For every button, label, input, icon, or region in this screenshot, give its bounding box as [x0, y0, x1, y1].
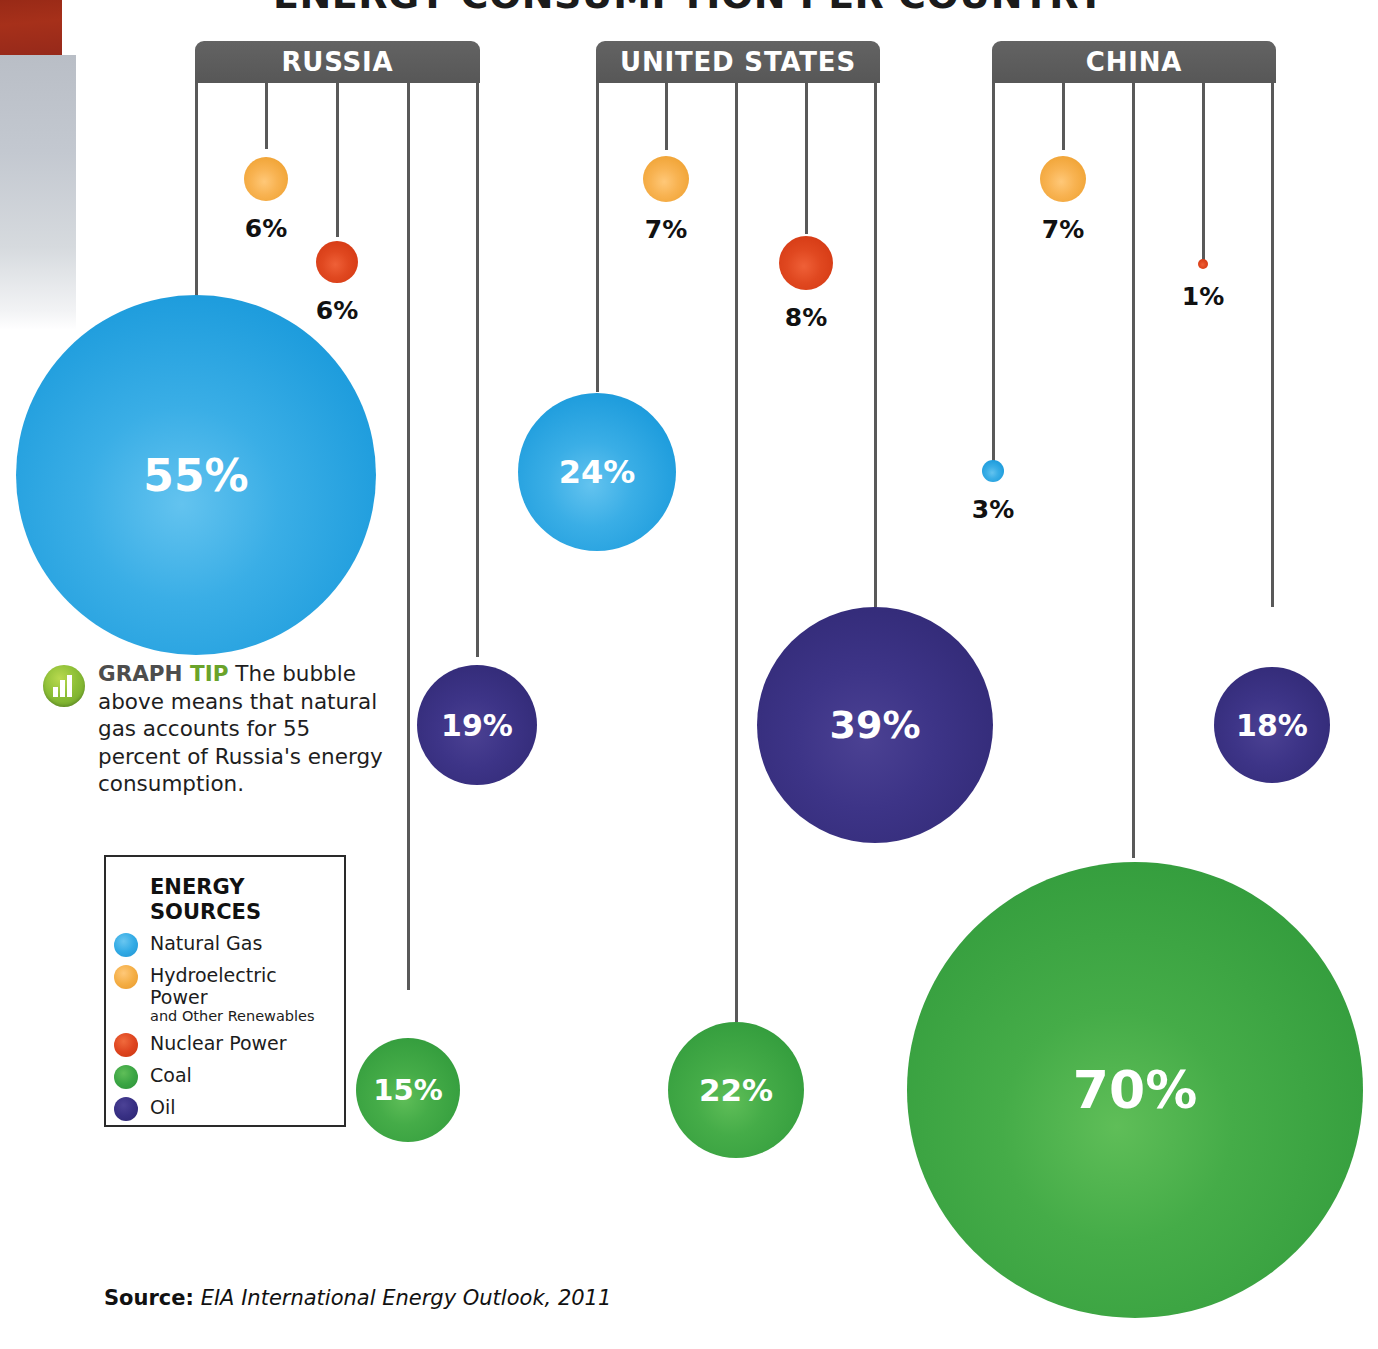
- legend-item-label: Natural Gas: [150, 932, 262, 954]
- connector-line: [195, 82, 198, 297]
- bubble-value-label: 55%: [143, 450, 248, 501]
- source-label: Source:: [104, 1286, 194, 1310]
- graph-tip-heading-tip: TIP: [190, 661, 228, 686]
- bubble-ru-nuclear: [316, 241, 358, 283]
- bubble-value-label: 6%: [206, 214, 326, 243]
- country-header-label: RUSSIA: [281, 47, 393, 77]
- bubble-us-nuclear: [779, 236, 833, 290]
- bubble-us-oil: 39%: [757, 607, 993, 843]
- legend-item-label-wrap: Natural Gas: [150, 932, 262, 954]
- graph-tip: GRAPH TIP The bubble above means that na…: [40, 660, 392, 798]
- bubble-value-label: 7%: [1003, 215, 1123, 244]
- bubble-value-label: 7%: [606, 215, 726, 244]
- legend-item-nuclear: Nuclear Power: [114, 1032, 332, 1057]
- bubble-cn-ng: [982, 460, 1004, 482]
- bubble-value-label: 15%: [373, 1073, 442, 1107]
- connector-line: [1271, 82, 1274, 607]
- connector-line: [1132, 82, 1135, 858]
- country-header-label: UNITED STATES: [620, 47, 856, 77]
- legend-swatch-oil-icon: [114, 1097, 138, 1121]
- legend-title: ENERGY SOURCES: [114, 875, 332, 925]
- bubble-ru-hydro: [244, 157, 288, 201]
- legend-swatch-nuclear-icon: [114, 1033, 138, 1057]
- legend-box: ENERGY SOURCES Natural GasHydroelectric …: [104, 855, 346, 1127]
- legend-item-label-wrap: Oil: [150, 1096, 176, 1118]
- source-text: EIA International Energy Outlook, 2011: [201, 1286, 612, 1310]
- legend-item-hydro: Hydroelectric Powerand Other Renewables: [114, 964, 332, 1025]
- bubble-value-label: 39%: [830, 703, 921, 747]
- bar-chart-icon: [43, 665, 85, 707]
- legend-item-label-wrap: Nuclear Power: [150, 1032, 287, 1054]
- page-title: ENERGY CONSUMPTION PER COUNTRY: [0, 0, 1378, 17]
- bubble-value-label: 18%: [1236, 708, 1308, 743]
- legend-swatch-coal-icon: [114, 1065, 138, 1089]
- legend-item-ng: Natural Gas: [114, 932, 332, 957]
- legend-item-label: Nuclear Power: [150, 1032, 287, 1054]
- legend-item-label-wrap: Coal: [150, 1064, 192, 1086]
- country-header-united-states: UNITED STATES: [596, 41, 880, 83]
- graph-tip-heading-graph: GRAPH: [98, 661, 183, 686]
- graph-tip-heading: GRAPH TIP: [98, 661, 229, 686]
- source-line: Source: EIA International Energy Outlook…: [104, 1286, 611, 1310]
- legend-item-sublabel: and Other Renewables: [150, 1008, 332, 1025]
- bubble-cn-nuclear: [1198, 259, 1208, 269]
- infographic-root: ENERGY CONSUMPTION PER COUNTRY RUSSIAUNI…: [0, 0, 1378, 1349]
- legend-items: Natural GasHydroelectric Powerand Other …: [114, 932, 332, 1121]
- bubble-value-label: 70%: [1073, 1060, 1197, 1120]
- bubble-ru-oil: 19%: [417, 665, 537, 785]
- legend-item-oil: Oil: [114, 1096, 332, 1121]
- legend-item-label: Coal: [150, 1064, 192, 1086]
- legend-swatch-hydro-icon: [114, 965, 138, 989]
- bubble-value-label: 1%: [1143, 282, 1263, 311]
- connector-line: [874, 82, 877, 607]
- bubble-value-label: 3%: [933, 495, 1053, 524]
- bubble-ru-coal: 15%: [356, 1038, 460, 1142]
- bubble-value-label: 19%: [441, 708, 513, 743]
- connector-line: [1062, 82, 1065, 150]
- bubble-us-ng: 24%: [518, 393, 676, 551]
- bubble-ru-ng: 55%: [16, 295, 376, 655]
- country-header-label: CHINA: [1086, 47, 1182, 77]
- connector-line: [735, 82, 738, 1022]
- country-header-china: CHINA: [992, 41, 1276, 83]
- bubble-cn-oil: 18%: [1214, 667, 1330, 783]
- connector-line: [265, 82, 268, 149]
- bubble-value-label: 22%: [699, 1072, 773, 1108]
- bubble-value-label: 6%: [277, 296, 397, 325]
- connector-line: [1202, 82, 1205, 260]
- legend-item-label-wrap: Hydroelectric Powerand Other Renewables: [150, 964, 332, 1025]
- connector-line: [476, 82, 479, 657]
- legend-item-label: Oil: [150, 1096, 176, 1118]
- country-header-russia: RUSSIA: [195, 41, 480, 83]
- connector-line: [665, 82, 668, 150]
- bubble-cn-hydro: [1040, 156, 1086, 202]
- connector-line: [596, 82, 599, 392]
- bubble-us-hydro: [643, 156, 689, 202]
- bubble-value-label: 8%: [746, 303, 866, 332]
- bubble-us-coal: 22%: [668, 1022, 804, 1158]
- graph-tip-text: GRAPH TIP The bubble above means that na…: [40, 660, 392, 798]
- bubble-value-label: 24%: [559, 453, 636, 491]
- bubble-cn-coal: 70%: [907, 862, 1363, 1318]
- decorative-gray-strip: [0, 55, 76, 330]
- legend-swatch-ng-icon: [114, 933, 138, 957]
- legend-item-label: Hydroelectric Power: [150, 964, 277, 1008]
- connector-line: [992, 82, 995, 462]
- connector-line: [805, 82, 808, 234]
- connector-line: [336, 82, 339, 237]
- connector-line: [407, 82, 410, 990]
- legend-item-coal: Coal: [114, 1064, 332, 1089]
